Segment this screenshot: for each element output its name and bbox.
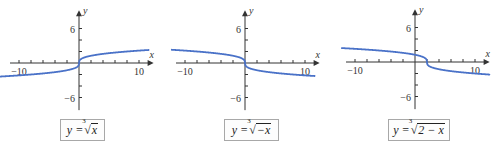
radicand: −x (257, 123, 270, 137)
graph-panel-cbrt-neg-x: −10106−6xy y = 3√−x (165, 0, 329, 151)
x-tick-label-neg10: −10 (347, 65, 363, 76)
y-axis-label: y (82, 5, 88, 16)
y-axis-arrow-icon (242, 10, 248, 16)
x-axis-arrow-icon (148, 60, 154, 66)
y-tick-label-6: 6 (70, 24, 75, 35)
radical: 3√2 − x (410, 123, 445, 138)
radical: 3√x (83, 123, 98, 138)
function-curve (342, 48, 490, 74)
y-tick-label-neg6: −6 (400, 92, 411, 103)
radicand: 2 − x (418, 123, 443, 137)
x-axis-label: x (149, 49, 155, 60)
graph-panel-cbrt-2-minus-x: −10106−6xy y = 3√2 − x (326, 0, 490, 151)
y-axis-arrow-icon (76, 10, 82, 16)
x-axis-arrow-icon (484, 59, 490, 65)
caption-cbrt-neg-x: y = 3√−x (224, 119, 279, 141)
y-tick-label-6: 6 (236, 24, 241, 35)
radical: 3√−x (248, 123, 271, 138)
x-tick-label-10: 10 (134, 66, 144, 77)
radical-index: 3 (247, 117, 251, 125)
caption-cbrt-2-minus-x: y = 3√2 − x (388, 119, 450, 141)
y-tick-label-6: 6 (406, 23, 411, 34)
y-axis-label: y (418, 4, 424, 15)
radicand: x (92, 123, 97, 137)
caption-lhs: y = (393, 123, 409, 138)
caption-lhs: y = (232, 123, 248, 138)
y-tick-label-neg6: −6 (64, 93, 75, 104)
y-tick-label-neg6: −6 (230, 93, 241, 104)
radical-index: 3 (409, 117, 413, 125)
x-axis-label: x (315, 49, 321, 60)
caption-cbrt-x: y = 3√x (60, 119, 105, 141)
caption-lhs: y = (67, 123, 83, 138)
y-axis-label: y (248, 5, 254, 16)
graph-panel-cbrt-x: −10106−6xy y = 3√x (0, 0, 164, 151)
x-axis-arrow-icon (314, 60, 320, 66)
y-axis-arrow-icon (412, 9, 418, 15)
radical-index: 3 (82, 117, 86, 125)
x-tick-label-neg10: −10 (177, 66, 193, 77)
x-axis-label: x (485, 48, 491, 59)
